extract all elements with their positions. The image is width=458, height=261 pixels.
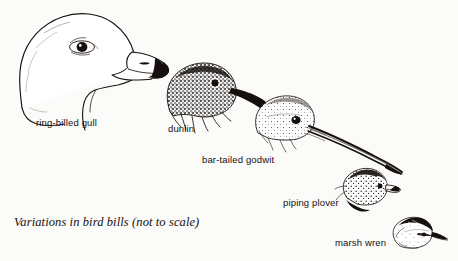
figure-caption: Variations in bird bills (not to scale) <box>14 216 199 229</box>
godwit-eye <box>291 116 300 124</box>
label-ring-billed-gull: ring-billed gull <box>36 118 97 128</box>
label-bar-tailed-godwit: bar-tailed godwit <box>202 155 274 165</box>
dunlin-eye <box>212 80 219 87</box>
bird-bills-figure: ring-billed gull dunlin bar-tailed godwi… <box>0 0 458 261</box>
label-marsh-wren: marsh wren <box>335 238 386 248</box>
label-dunlin: dunlin <box>168 124 194 134</box>
label-piping-plover: piping plover <box>283 198 339 208</box>
wren-eye <box>422 233 426 237</box>
plover-eye <box>378 184 383 189</box>
